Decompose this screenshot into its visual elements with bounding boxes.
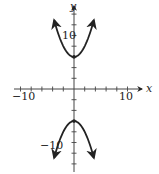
upper-vertex-point [72,55,76,59]
y-axis-label: y [69,0,77,13]
x-tick-label-min: −10 [12,90,35,103]
lower-vertex-point [72,119,76,123]
x-axis-label: x [146,82,153,95]
x-tick-label-max: 10 [119,90,133,103]
y-tick-label-max: 10 [62,29,76,42]
graph: y x −10 10 10 −10 [0,0,159,174]
y-tick-label-min: −10 [40,139,63,152]
